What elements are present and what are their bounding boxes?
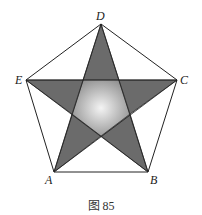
- point-label-d: D: [96, 10, 105, 22]
- point-label-e: E: [15, 74, 22, 86]
- figure-caption: 图 85: [0, 196, 202, 214]
- pentagram-diagram: [0, 0, 202, 215]
- point-label-a: A: [45, 174, 52, 186]
- point-label-b: B: [150, 174, 157, 186]
- point-label-c: C: [180, 74, 188, 86]
